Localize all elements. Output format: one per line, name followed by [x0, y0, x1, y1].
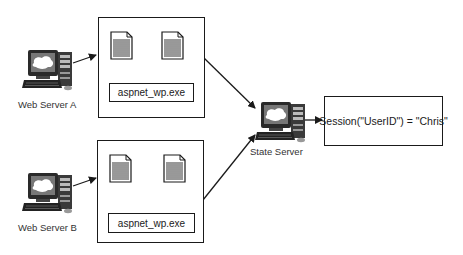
document-icon [109, 154, 133, 184]
document-icon [161, 31, 185, 61]
session-store-box: Session("UserID") = "Chris" [324, 96, 443, 146]
process-box-a: aspnet_wp.exe [98, 17, 205, 118]
web-server-a-label: Web Server A [18, 99, 76, 110]
state-server-computer-icon [255, 102, 305, 142]
aspnet-wp-process-label: aspnet_wp.exe [109, 83, 194, 102]
web-server-b-computer-icon [22, 173, 72, 213]
state-server-label: State Server [250, 146, 303, 157]
edge-webserver-b-to-box-b [73, 178, 96, 186]
edge-webserver-a-to-box-a [73, 55, 96, 63]
document-icon [110, 31, 134, 61]
edge-box-a-to-state-server [204, 58, 255, 108]
edge-box-b-to-state-server [203, 135, 255, 200]
aspnet-wp-process-label: aspnet_wp.exe [108, 213, 195, 233]
web-server-b-label: Web Server B [18, 222, 77, 233]
document-icon [163, 154, 187, 184]
process-box-b: aspnet_wp.exe [97, 140, 204, 243]
web-server-a-computer-icon [22, 50, 72, 90]
